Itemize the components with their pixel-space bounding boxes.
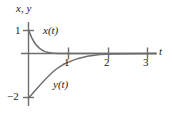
- chart-figure: x, y t 1 −2 1 2 3 x(t) y(t): [0, 0, 173, 115]
- x-tick-label-1: 1: [64, 57, 70, 68]
- x-tick-label-3: 3: [143, 57, 149, 68]
- y-tick-label-1: 1: [15, 25, 21, 36]
- series-curve-y: [29, 54, 156, 98]
- curve-label-y: y(t): [53, 79, 68, 90]
- y-tick-label-neg2: −2: [7, 91, 19, 102]
- x-axis-label: t: [159, 46, 162, 57]
- curve-label-x: x(t): [43, 25, 58, 36]
- x-tick-label-2: 2: [104, 57, 110, 68]
- y-axis-label: x, y: [16, 3, 31, 14]
